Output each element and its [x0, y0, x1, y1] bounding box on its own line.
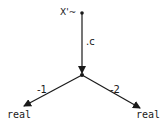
- edge-label-minus-2: -2: [110, 85, 120, 95]
- diagram-canvas: X'~ .c -1 -2 real real: [0, 0, 165, 124]
- right-node-label: real: [136, 110, 160, 120]
- edge-label-c: .c: [86, 37, 95, 47]
- top-node-label: X'~: [60, 8, 76, 17]
- edge-junction-to-left: [24, 75, 82, 106]
- diagram-graph: [0, 0, 165, 124]
- edge-label-minus-1: -1: [37, 85, 47, 95]
- left-node-label: real: [7, 110, 31, 120]
